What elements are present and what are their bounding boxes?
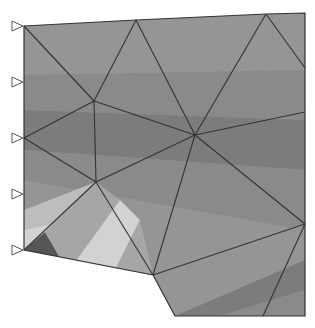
fem-mesh-diagram xyxy=(0,0,315,328)
contour-band xyxy=(24,13,305,75)
boundary-supports xyxy=(12,21,23,255)
pin-support-icon xyxy=(12,21,23,31)
pin-support-icon xyxy=(12,245,23,255)
pin-support-icon xyxy=(12,133,23,143)
pin-support-icon xyxy=(12,77,23,87)
mesh-canvas xyxy=(0,0,315,328)
pin-support-icon xyxy=(12,189,23,199)
